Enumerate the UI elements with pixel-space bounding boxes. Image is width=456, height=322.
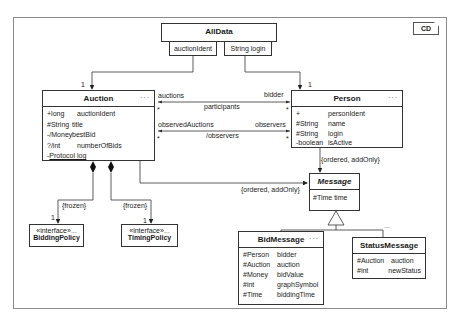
attribute: #Auctionauction (243, 260, 319, 270)
class-name: BidMessage (258, 235, 305, 244)
association-observers: /observers (206, 132, 239, 139)
multiplicity: * (286, 135, 289, 142)
role-auctions: auctions (158, 92, 184, 99)
multiplicity: 1 (143, 217, 147, 224)
class-auction[interactable]: Auction ... +longauctionIdent #Stringtit… (42, 90, 155, 161)
role-observed-auctions: observedAuctions (158, 121, 214, 128)
multiplicity: * (157, 135, 160, 142)
class-statusmessage[interactable]: StatusMessage #Auctionauction #intnewSta… (352, 237, 426, 279)
constraint: {ordered, addOnly} (241, 186, 300, 193)
constraint-frozen: {frozen} (62, 202, 86, 209)
attribute: +personIdent (296, 109, 398, 119)
class-bidmessage[interactable]: BidMessage ... #Personbidder #Auctionauc… (238, 231, 324, 305)
attribute: #Stringlogin (296, 129, 398, 139)
multiplicity: * (286, 106, 289, 113)
attribute: ?/intnumberOfBids (47, 141, 150, 152)
attribute: #intnewStatus (357, 266, 421, 276)
class-message[interactable]: Message #Time time (309, 173, 360, 211)
class-header: Person ... (292, 91, 402, 107)
constraint-frozen: {frozen} (123, 202, 147, 209)
interface-biddingpolicy[interactable]: «interface»... BiddingPolicy (29, 224, 84, 247)
class-header: BidMessage ... (239, 232, 323, 248)
role-bidder: bidder (264, 91, 283, 98)
class-name: Message (310, 174, 359, 190)
attribute: #Time time (313, 193, 356, 204)
attribute: #TimebiddingTime (243, 290, 319, 300)
class-name: StatusMessage (353, 238, 425, 254)
constraint: {ordered, addOnly} (321, 156, 380, 163)
attribute: +longauctionIdent (47, 109, 150, 120)
role-observers: observers (255, 121, 286, 128)
class-name: Person (333, 94, 360, 103)
class-header: Auction ... (43, 91, 154, 107)
class-name: AllData (162, 24, 276, 39)
more-icon: ... (384, 222, 390, 229)
class-name: Auction (84, 94, 114, 103)
more-icon: ... (309, 232, 319, 241)
qualifier-auctionident: auctionIdent (169, 41, 217, 56)
more-icon: ... (388, 91, 398, 100)
multiplicity: 1 (81, 81, 85, 88)
attribute: -booleanisActive (296, 138, 398, 148)
multiplicity: 1 (308, 81, 312, 88)
attribute: #Personbidder (243, 250, 319, 260)
multiplicity: * (157, 106, 160, 113)
attribute: #MoneybidValue (243, 270, 319, 280)
class-person[interactable]: Person ... +personIdent #Stringname #Str… (291, 90, 403, 148)
attribute: #intgraphSymbol (243, 280, 319, 290)
more-icon: ... (140, 91, 150, 100)
class-alldata[interactable]: AllData (161, 23, 277, 42)
qualifier-login: String login (224, 41, 272, 56)
attribute: -Protocol log (47, 151, 150, 162)
multiplicity: 1 (51, 214, 55, 221)
attribute: #Stringname (296, 119, 398, 129)
interface-timingpolicy[interactable]: «interface»... TimingPolicy (121, 224, 178, 247)
attribute: -/MoneybestBid (47, 130, 150, 141)
attribute: #Stringtitle (47, 120, 150, 131)
association-participants: participants (204, 103, 240, 110)
attribute: #Auctionauction (357, 256, 421, 266)
